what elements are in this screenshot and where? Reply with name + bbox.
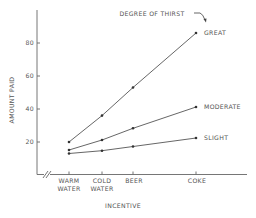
series-label-great: GREAT — [204, 29, 226, 36]
annotation-arrow-icon — [194, 13, 205, 20]
series-slight: SLIGHT — [68, 134, 229, 155]
x-tick-label: WATER — [57, 185, 80, 192]
y-axis-title: AMOUNT PAID — [8, 77, 15, 124]
x-tick-label: WATER — [90, 185, 113, 192]
series-label-slight: SLIGHT — [204, 134, 228, 141]
y-tick-label: 40 — [26, 105, 34, 112]
line-chart: 20 40 60 80 WARM WATER COLD WATER BEER C… — [0, 0, 256, 218]
y-tick-label: 60 — [26, 72, 34, 79]
x-tick-label: BEER — [125, 177, 143, 184]
x-tick-label: WARM — [59, 177, 80, 184]
x-axis-title: INCENTIVE — [105, 202, 141, 209]
x-tick-label: COLD — [93, 177, 112, 184]
series-great: GREAT — [68, 29, 226, 143]
annotation-degree-of-thirst: DEGREE OF THIRST — [119, 10, 184, 17]
x-tick-label: COKE — [188, 177, 206, 184]
y-tick-label: 80 — [26, 39, 34, 46]
y-tick-label: 20 — [26, 138, 34, 145]
y-ticks: 20 40 60 80 — [26, 39, 40, 145]
series-label-moderate: MODERATE — [204, 103, 241, 110]
arrowhead-icon — [204, 19, 207, 23]
